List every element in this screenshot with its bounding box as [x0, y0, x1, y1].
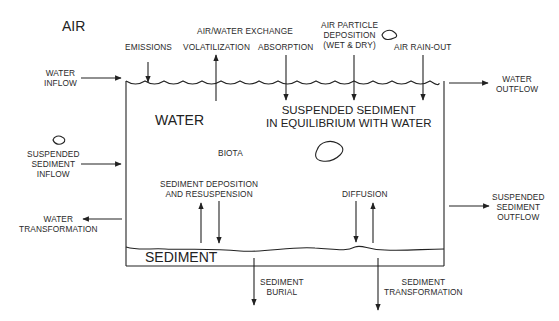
air-particle-blob [382, 30, 397, 39]
susp-outflow-label: SUSPENDED SEDIMENT OUTFLOW [492, 192, 545, 222]
suspended-line1: SUSPENDED SEDIMENT [266, 104, 431, 117]
susp-inflow-line3: INFLOW [27, 169, 80, 179]
inflow-particle-blob [53, 136, 65, 144]
water-inflow-line2: INFLOW [44, 78, 77, 88]
water-transf-line2: TRANSFORMATION [19, 224, 98, 234]
deposition-line1: SEDIMENT DEPOSITION [160, 179, 258, 189]
water-outflow-line2: OUTFLOW [496, 84, 538, 94]
emissions-label: EMISSIONS [125, 42, 172, 52]
water-inflow-line1: WATER [44, 68, 77, 78]
susp-inflow-line1: SUSPENDED [27, 149, 80, 159]
deposition-line2: AND RESUSPENSION [160, 189, 258, 199]
burial-line2: BURIAL [260, 287, 304, 297]
air-particle-line1: AIR PARTICLE [321, 20, 378, 30]
air-label: AIR [62, 19, 85, 34]
susp-inflow-line2: SEDIMENT [27, 159, 80, 169]
susp-outflow-line2: SEDIMENT [492, 202, 545, 212]
suspended-particle-blob [316, 141, 343, 161]
suspended-sediment-label: SUSPENDED SEDIMENT IN EQUILIBRIUM WITH W… [266, 104, 431, 130]
air-rainout-label: AIR RAIN-OUT [394, 42, 451, 52]
burial-label: SEDIMENT BURIAL [260, 277, 304, 297]
water-transf-label: WATER TRANSFORMATION [19, 214, 98, 234]
air-water-exchange-label: AIR/WATER EXCHANGE [197, 26, 293, 36]
water-inflow-label: WATER INFLOW [44, 68, 77, 88]
sediment-label: SEDIMENT [145, 250, 217, 265]
water-outflow-label: WATER OUTFLOW [496, 74, 538, 94]
volatilization-label: VOLATILIZATION [183, 42, 250, 52]
deposition-label: SEDIMENT DEPOSITION AND RESUSPENSION [160, 179, 258, 199]
susp-inflow-label: SUSPENDED SEDIMENT INFLOW [27, 149, 80, 179]
water-transf-line1: WATER [19, 214, 98, 224]
air-particle-line2: DEPOSITION [321, 30, 378, 40]
diffusion-label: DIFFUSION [342, 189, 388, 199]
absorption-label: ABSORPTION [258, 42, 313, 52]
sed-transf-line2: TRANSFORMATION [384, 287, 463, 297]
air-particle-label: AIR PARTICLE DEPOSITION (WET & DRY) [321, 20, 378, 50]
susp-outflow-line1: SUSPENDED [492, 192, 545, 202]
sed-transf-line1: SEDIMENT [384, 277, 463, 287]
water-surface-waves [126, 81, 439, 85]
water-outflow-line1: WATER [496, 74, 538, 84]
sed-transf-label: SEDIMENT TRANSFORMATION [384, 277, 463, 297]
suspended-line2: IN EQUILIBRIUM WITH WATER [266, 117, 431, 130]
biota-label: BIOTA [218, 148, 243, 158]
burial-line1: SEDIMENT [260, 277, 304, 287]
susp-outflow-line3: OUTFLOW [492, 212, 545, 222]
air-particle-line3: (WET & DRY) [321, 40, 378, 50]
water-label: WATER [155, 113, 204, 128]
